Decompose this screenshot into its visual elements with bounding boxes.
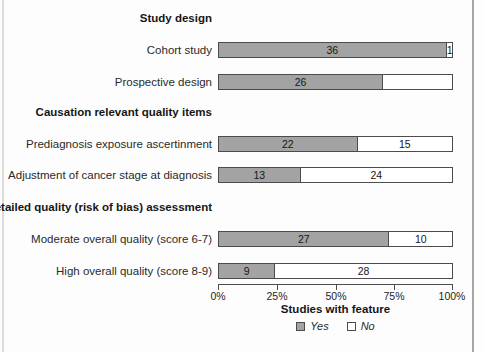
- bar-segment-no: 24: [301, 167, 453, 183]
- legend: Yes No: [218, 320, 453, 332]
- category-label: Moderate overall quality (score 6-7): [31, 233, 212, 245]
- bar-value-yes: 36: [326, 44, 338, 56]
- bar-row-cancer-stage-adjustment: Adjustment of cancer stage at diagnosis …: [0, 167, 483, 183]
- bar-row-prediagnosis-exposure: Prediagnosis exposure ascertinment 22 15: [0, 136, 483, 152]
- x-tick-label: 25%: [255, 290, 299, 302]
- category-label: Cohort study: [147, 44, 212, 56]
- bar-segment-yes: 13: [218, 167, 301, 183]
- bar-segment-no: 10: [389, 231, 453, 247]
- stacked-bar: 13 24: [218, 167, 453, 183]
- bar-row-moderate-quality: Moderate overall quality (score 6-7) 27 …: [0, 231, 483, 247]
- section-header-detailed-quality: Detailed quality (risk of bias) assessme…: [0, 201, 212, 213]
- bar-segment-no: 28: [275, 263, 453, 279]
- bar-row-high-quality: High overall quality (score 8-9) 9 28: [0, 263, 483, 279]
- bar-value-no: 15: [399, 138, 411, 150]
- legend-label-yes: Yes: [310, 320, 328, 332]
- bar-value-no: 28: [358, 265, 370, 277]
- bar-value-no: 24: [370, 169, 382, 181]
- bar-value-yes: 26: [295, 76, 307, 88]
- category-label: Prediagnosis exposure ascertinment: [26, 138, 212, 150]
- x-tick-label: 0%: [196, 290, 240, 302]
- bar-segment-no: 1: [447, 42, 454, 58]
- category-label: High overall quality (score 8-9): [56, 265, 212, 277]
- stacked-bar: 22 15: [218, 136, 453, 152]
- bar-segment-no: [383, 74, 453, 90]
- legend-label-no: No: [361, 320, 375, 332]
- bar-value-yes: 27: [298, 233, 310, 245]
- category-label: Adjustment of cancer stage at diagnosis: [8, 169, 212, 181]
- x-tick-label: 50%: [314, 290, 358, 302]
- bar-segment-yes: 22: [218, 136, 358, 152]
- study-quality-bar-chart: Study design Cohort study 36 1 Prospecti…: [0, 0, 483, 352]
- section-header-causation-items: Causation relevant quality items: [36, 106, 212, 118]
- bar-segment-yes: 36: [218, 42, 447, 58]
- category-label: Prospective design: [115, 76, 212, 88]
- stacked-bar: 27 10: [218, 231, 453, 247]
- bar-value-no: 10: [415, 233, 427, 245]
- bar-segment-no: 15: [358, 136, 453, 152]
- section-header-study-design: Study design: [140, 12, 212, 24]
- bar-value-yes: 13: [253, 169, 265, 181]
- bar-segment-yes: 9: [218, 263, 275, 279]
- bar-row-cohort-study: Cohort study 36 1: [0, 42, 483, 58]
- stacked-bar: 36 1: [218, 42, 453, 58]
- x-tick-label: 75%: [372, 290, 416, 302]
- bar-value-yes: 22: [282, 138, 294, 150]
- bar-value-yes: 9: [244, 265, 250, 277]
- bar-row-prospective-design: Prospective design 26: [0, 74, 483, 90]
- bar-segment-yes: 26: [218, 74, 383, 90]
- legend-item-yes: Yes: [296, 320, 328, 332]
- legend-swatch-yes: [296, 322, 305, 331]
- x-tick-label: 100%: [430, 290, 474, 302]
- stacked-bar: 26: [218, 74, 453, 90]
- bar-value-no: 1: [447, 44, 453, 56]
- legend-swatch-no: [347, 322, 356, 331]
- legend-item-no: No: [347, 320, 375, 332]
- stacked-bar: 9 28: [218, 263, 453, 279]
- x-axis-title: Studies with feature: [218, 303, 453, 315]
- bar-segment-yes: 27: [218, 231, 389, 247]
